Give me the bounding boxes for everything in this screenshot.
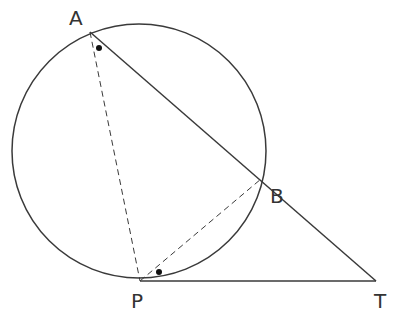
label-T: T <box>373 289 387 313</box>
label-P: P <box>131 289 143 313</box>
angle-marker-A <box>96 45 102 51</box>
chord-PB-dashed <box>140 179 261 281</box>
circle <box>12 24 266 278</box>
label-A: A <box>69 6 83 30</box>
geometry-diagram: A B P T <box>0 0 400 323</box>
angle-marker-P <box>156 269 162 275</box>
label-B: B <box>270 184 284 208</box>
